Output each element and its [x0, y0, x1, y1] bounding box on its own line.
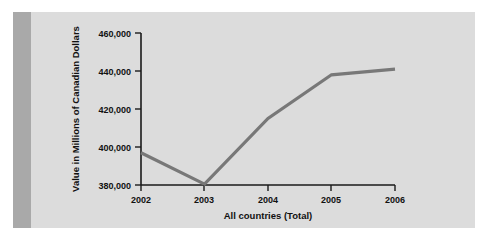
data-series-line — [141, 69, 395, 184]
x-axis-label-2005: 2005 — [321, 195, 341, 205]
screenshot-root: 460,000 440,000 420,000 400,000 380,000 … — [0, 0, 493, 242]
chart-canvas: 460,000 440,000 420,000 400,000 380,000 … — [13, 12, 475, 228]
y-axis-label-440000: 440,000 — [98, 67, 131, 77]
y-axis-title: Value in Millions of Canadian Dollars — [70, 26, 81, 192]
y-axis-label-380000: 380,000 — [98, 181, 131, 191]
y-axis-label-420000: 420,000 — [98, 105, 131, 115]
x-axis-title: All countries (Total) — [224, 210, 313, 221]
y-axis-label-400000: 400,000 — [98, 143, 131, 153]
x-axis-label-2004: 2004 — [258, 195, 278, 205]
scanned-page-area: 460,000 440,000 420,000 400,000 380,000 … — [13, 12, 475, 228]
line-chart: 460,000 440,000 420,000 400,000 380,000 … — [13, 12, 475, 228]
x-axis-label-2002: 2002 — [131, 195, 151, 205]
x-axis-label-2006: 2006 — [385, 195, 405, 205]
y-axis-label-460000: 460,000 — [98, 29, 131, 39]
x-axis-label-2003: 2003 — [194, 195, 214, 205]
